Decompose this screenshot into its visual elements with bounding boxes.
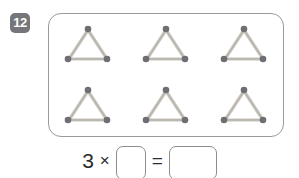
list-item — [60, 21, 116, 69]
matchstick-triangle-icon — [62, 23, 114, 67]
multiplication-sign: × — [100, 146, 110, 176]
matchstick-triangle-icon — [218, 23, 270, 67]
matchstick-triangle-icon — [140, 84, 192, 128]
list-item — [216, 21, 272, 69]
product-answer-box[interactable] — [169, 146, 217, 178]
list-item — [138, 21, 194, 69]
factor-answer-box[interactable] — [116, 146, 146, 178]
matchstick-panel — [48, 13, 284, 137]
list-item — [60, 82, 116, 130]
equation-row: 3 × = — [0, 146, 299, 178]
matchstick-triangle-icon — [218, 84, 270, 128]
exercise-number-badge: 12 — [10, 13, 30, 33]
equals-sign: = — [152, 146, 163, 176]
equation-factor-known: 3 — [82, 146, 94, 176]
triangle-grid — [49, 14, 283, 136]
list-item — [216, 82, 272, 130]
matchstick-triangle-icon — [62, 84, 114, 128]
matchstick-triangle-icon — [140, 23, 192, 67]
list-item — [138, 82, 194, 130]
